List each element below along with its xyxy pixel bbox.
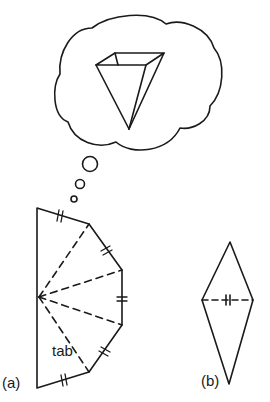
panel-a-label: (a) [2,374,20,391]
pyramid-icon [96,53,164,129]
tab-label: tab [52,342,73,359]
panel-b-label: (b) [201,372,219,389]
bubble-small [71,196,77,202]
bubble-large [83,157,98,172]
net-a [37,208,127,388]
rhombus-b [202,242,253,384]
bubble-medium [76,180,85,189]
diagram-canvas: tab (a) (b) [0,0,270,402]
thought-cloud [55,15,222,150]
